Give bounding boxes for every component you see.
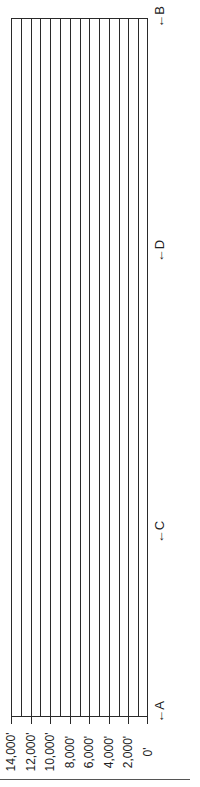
elevation-label: 14,000' — [4, 727, 18, 777]
arrow-icon: ← — [152, 15, 167, 28]
grid-line — [89, 18, 90, 717]
axis-tick — [89, 717, 90, 724]
axis-tick — [109, 717, 110, 724]
bottom-rule — [0, 779, 190, 780]
arrow-icon: ← — [152, 249, 167, 262]
marker-label: A — [152, 701, 167, 710]
axis-tick — [11, 717, 12, 724]
axis-tick — [147, 717, 148, 724]
grid-line — [109, 18, 110, 717]
marker-label: D — [152, 240, 167, 249]
grid-line — [70, 18, 71, 717]
axis-tick — [31, 717, 32, 724]
grid-line — [119, 18, 120, 717]
marker-label: C — [152, 521, 167, 530]
elevation-label: 12,000' — [24, 727, 38, 777]
elevation-label: 2,000' — [121, 727, 135, 777]
marker-a: ←A — [152, 692, 168, 732]
marker-d: ←D — [152, 231, 168, 271]
elevation-label: 4,000' — [102, 727, 116, 777]
grid-line — [138, 18, 139, 717]
marker-label: B — [152, 6, 167, 15]
axis-tick — [128, 717, 129, 724]
axis-tick — [50, 717, 51, 724]
elevation-label: 10,000' — [43, 727, 57, 777]
grid-line — [31, 18, 32, 717]
elevation-label: 0' — [141, 727, 155, 777]
grid-line — [60, 18, 61, 717]
elevation-label: 8,000' — [63, 727, 77, 777]
axis-tick — [70, 717, 71, 724]
grid-line — [40, 18, 41, 717]
arrow-icon: ← — [152, 530, 167, 543]
arrow-icon: ← — [152, 710, 167, 723]
grid-line — [99, 18, 100, 717]
grid-line — [128, 18, 129, 717]
grid-line — [21, 18, 22, 717]
elevation-label: 6,000' — [82, 727, 96, 777]
marker-c: ←C — [152, 512, 168, 552]
grid-line — [80, 18, 81, 717]
marker-b: ←B — [152, 0, 168, 37]
grid-line — [50, 18, 51, 717]
